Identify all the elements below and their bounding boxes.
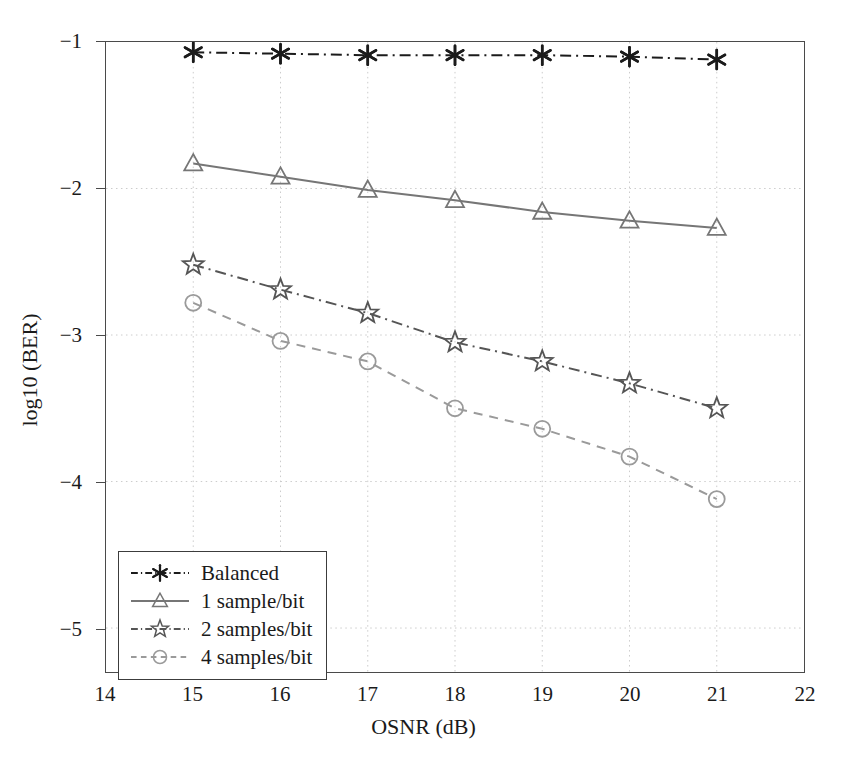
x-tick-label: 19 (532, 682, 553, 707)
x-tick-label: 21 (707, 682, 728, 707)
x-tick-label: 14 (95, 682, 116, 707)
series-1-sample-bit (184, 154, 725, 235)
x-tick-label: 15 (182, 682, 203, 707)
legend-item-4-samples-bit[interactable]: 4 samples/bit (129, 643, 312, 671)
legend-label: 4 samples/bit (201, 645, 312, 669)
y-tick-label-text: −3 (60, 322, 82, 347)
series-2-samples-bit (183, 254, 727, 417)
y-tick-label-text: −4 (60, 469, 82, 494)
legend-swatch-balanced (129, 561, 191, 585)
x-tick-label: 16 (270, 682, 291, 707)
chart-legend: Balanced 1 sample/bit 2 samples/bit 4 sa… (118, 551, 327, 680)
x-tick-label: 22 (795, 682, 816, 707)
legend-label: 1 sample/bit (201, 589, 304, 613)
x-tick-label: 18 (445, 682, 466, 707)
legend-label: 2 samples/bit (201, 617, 312, 641)
legend-swatch-2-samples-bit (129, 617, 191, 641)
legend-swatch-4-samples-bit (129, 645, 191, 669)
legend-item-2-samples-bit[interactable]: 2 samples/bit (129, 615, 312, 643)
chart-figure: log10 (BER) −1−2−3−4−5 14151617181920212… (0, 0, 847, 781)
x-tick-label: 17 (357, 682, 378, 707)
y-tick-label-text: −2 (60, 175, 82, 200)
legend-item-balanced[interactable]: Balanced (129, 559, 312, 587)
x-axis-title: OSNR (dB) (0, 714, 847, 740)
y-axis-title: log10 (BER) (17, 220, 43, 520)
series-balanced (185, 43, 725, 69)
x-tick-label: 20 (620, 682, 641, 707)
y-tick-label-text: −1 (60, 29, 82, 54)
series-4-samples-bit (185, 295, 724, 507)
legend-swatch-1-sample-bit (129, 589, 191, 613)
legend-item-1-sample-bit[interactable]: 1 sample/bit (129, 587, 312, 615)
legend-label: Balanced (201, 561, 279, 585)
y-tick-label-text: −5 (60, 616, 82, 641)
